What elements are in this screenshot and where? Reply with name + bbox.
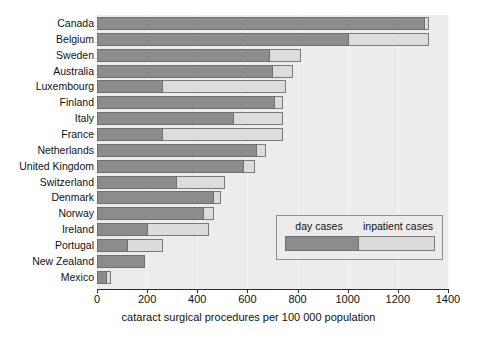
y-axis-label-united-kingdom: United Kingdom bbox=[0, 160, 94, 173]
x-axis-tick-label: 1400 bbox=[418, 293, 478, 305]
y-axis-label-luxembourg: Luxembourg bbox=[0, 80, 94, 93]
bar-segment-inpatient-cases bbox=[214, 191, 222, 204]
bar-segment-inpatient-cases bbox=[163, 128, 282, 141]
bar-segment-day-cases bbox=[97, 191, 214, 204]
bar-row bbox=[97, 176, 225, 189]
bar-row bbox=[97, 49, 301, 62]
legend-swatch-bar bbox=[285, 236, 435, 251]
bar-row bbox=[97, 271, 111, 284]
bar-row bbox=[97, 144, 266, 157]
bar-segment-inpatient-cases bbox=[234, 112, 283, 125]
legend-swatch-day-cases bbox=[285, 236, 359, 251]
bar-segment-inpatient-cases bbox=[270, 49, 301, 62]
x-axis-title: cataract surgical procedures per 100 000… bbox=[0, 311, 497, 323]
chart-legend: day cases inpatient cases bbox=[276, 215, 443, 260]
y-axis-label-switzerland: Switzerland bbox=[0, 176, 94, 189]
y-axis-label-portugal: Portugal bbox=[0, 239, 94, 252]
bar-segment-inpatient-cases bbox=[273, 65, 293, 78]
bar-row bbox=[97, 255, 145, 268]
bar-row bbox=[97, 96, 283, 109]
y-axis-label-france: France bbox=[0, 128, 94, 141]
y-axis-label-ireland: Ireland bbox=[0, 223, 94, 236]
bar-segment-inpatient-cases bbox=[275, 96, 283, 109]
bar-row bbox=[97, 128, 283, 141]
y-axis-label-mexico: Mexico bbox=[0, 271, 94, 284]
bar-segment-inpatient-cases bbox=[107, 271, 111, 284]
bar-row bbox=[97, 33, 429, 46]
bar-row bbox=[97, 191, 221, 204]
bar-segment-day-cases bbox=[97, 80, 163, 93]
bar-row bbox=[97, 112, 283, 125]
bar-row bbox=[97, 239, 163, 252]
y-axis-label-italy: Italy bbox=[0, 112, 94, 125]
bar-segment-inpatient-cases bbox=[177, 176, 225, 189]
y-axis-label-new-zealand: New Zealand bbox=[0, 255, 94, 268]
bar-segment-day-cases bbox=[97, 223, 148, 236]
bar-segment-day-cases bbox=[97, 96, 275, 109]
bar-segment-day-cases bbox=[97, 239, 128, 252]
x-axis-line bbox=[97, 289, 449, 290]
bar-chart: cataract surgical procedures per 100 000… bbox=[0, 0, 497, 338]
bar-row bbox=[97, 17, 429, 30]
bar-segment-inpatient-cases bbox=[425, 17, 429, 30]
y-axis-label-finland: Finland bbox=[0, 96, 94, 109]
bar-row bbox=[97, 160, 255, 173]
bar-segment-inpatient-cases bbox=[244, 160, 255, 173]
bar-segment-day-cases bbox=[97, 144, 257, 157]
bar-segment-day-cases bbox=[97, 17, 425, 30]
y-axis-label-denmark: Denmark bbox=[0, 191, 94, 204]
bar-segment-inpatient-cases bbox=[204, 207, 214, 220]
bar-segment-day-cases bbox=[97, 160, 244, 173]
legend-label-day-cases: day cases bbox=[282, 220, 356, 232]
bar-row bbox=[97, 223, 209, 236]
bar-segment-inpatient-cases bbox=[257, 144, 266, 157]
y-axis-label-canada: Canada bbox=[0, 17, 94, 30]
bar-segment-day-cases bbox=[97, 128, 163, 141]
bar-segment-day-cases bbox=[97, 207, 204, 220]
bar-segment-inpatient-cases bbox=[349, 33, 429, 46]
y-axis-label-netherlands: Netherlands bbox=[0, 144, 94, 157]
bar-segment-inpatient-cases bbox=[128, 239, 163, 252]
y-axis-label-belgium: Belgium bbox=[0, 33, 94, 46]
y-axis-label-australia: Australia bbox=[0, 65, 94, 78]
bar-segment-day-cases bbox=[97, 255, 145, 268]
bar-segment-day-cases bbox=[97, 112, 234, 125]
legend-label-inpatient-cases: inpatient cases bbox=[356, 220, 440, 232]
bar-segment-day-cases bbox=[97, 33, 349, 46]
legend-swatch-inpatient-cases bbox=[359, 236, 435, 251]
bar-row bbox=[97, 80, 286, 93]
bar-segment-day-cases bbox=[97, 49, 270, 62]
legend-labels: day cases inpatient cases bbox=[277, 220, 442, 232]
bar-row bbox=[97, 65, 293, 78]
bar-segment-day-cases bbox=[97, 176, 177, 189]
bar-segment-inpatient-cases bbox=[148, 223, 208, 236]
bar-segment-inpatient-cases bbox=[163, 80, 286, 93]
y-axis-label-norway: Norway bbox=[0, 207, 94, 220]
bar-segment-day-cases bbox=[97, 271, 107, 284]
bar-segment-day-cases bbox=[97, 65, 273, 78]
bar-row bbox=[97, 207, 214, 220]
y-axis-label-sweden: Sweden bbox=[0, 49, 94, 62]
